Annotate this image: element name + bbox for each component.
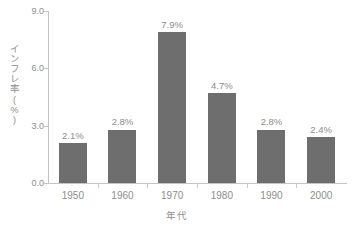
x-axis-tick-mark (147, 184, 148, 188)
bar-value-label: 2.8% (98, 116, 148, 127)
x-axis-tick-label: 1970 (147, 190, 197, 201)
x-axis-tick-label: 1960 (98, 190, 148, 201)
x-axis-tick-mark (247, 184, 248, 188)
bar-group: 2.1% (48, 11, 98, 183)
x-axis-tick-mark (197, 184, 198, 188)
bar-value-label: 7.9% (147, 19, 197, 30)
x-axis-tick-mark (296, 184, 297, 188)
bar[interactable] (307, 137, 335, 183)
x-axis-tick-mark (98, 184, 99, 188)
bar[interactable] (59, 143, 87, 183)
bar-value-label: 2.4% (296, 124, 346, 135)
y-axis-tick-labels: 0.03.06.09.0 (18, 0, 44, 229)
y-axis-tick-label: 9.0 (18, 6, 44, 16)
y-axis-tick-mark (44, 11, 49, 12)
bar[interactable] (257, 130, 285, 184)
bar-chart: インフレ率 (%) 0.03.06.09.0 2.1%2.8%7.9%4.7%2… (0, 0, 353, 229)
bar[interactable] (208, 93, 236, 183)
bar[interactable] (108, 130, 136, 184)
bar-group: 7.9% (147, 11, 197, 183)
y-axis-tick-mark (44, 126, 49, 127)
y-axis-tick-label: 0.0 (18, 178, 44, 188)
y-axis-tick-label: 3.0 (18, 121, 44, 131)
y-axis-tick-mark (44, 183, 49, 184)
bar-value-label: 4.7% (197, 80, 247, 91)
x-axis-tick-label: 2000 (296, 190, 346, 201)
y-axis-tick-label: 6.0 (18, 63, 44, 73)
bar-group: 2.8% (98, 11, 148, 183)
y-axis-tick-mark (44, 68, 49, 69)
bar[interactable] (158, 32, 186, 183)
x-axis-tick-label: 1950 (48, 190, 98, 201)
x-axis-tick-label: 1980 (197, 190, 247, 201)
bar-value-label: 2.1% (48, 130, 98, 141)
x-axis-tick-label: 1990 (247, 190, 297, 201)
plot-area: 2.1%2.8%7.9%4.7%2.8%2.4% (48, 11, 346, 183)
bar-group: 4.7% (197, 11, 247, 183)
x-axis-title: 年代 (0, 208, 353, 222)
bar-value-label: 2.8% (247, 116, 297, 127)
bar-group: 2.8% (247, 11, 297, 183)
bar-group: 2.4% (296, 11, 346, 183)
